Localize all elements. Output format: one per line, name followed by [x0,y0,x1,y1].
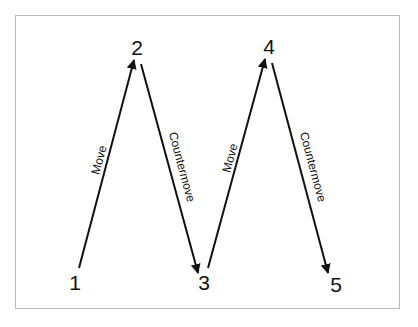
node-label-5: 5 [330,273,342,296]
node-label-2: 2 [131,36,143,59]
zigzag-diagram: MoveCountermoveMoveCountermove 12345 [0,0,418,327]
edge-label-countermove: Countermove [297,130,329,204]
node-label-4: 4 [263,35,275,58]
node-label-3: 3 [198,271,210,294]
node-label-1: 1 [69,271,81,294]
edge-label-countermove: Countermove [166,130,198,204]
edges-group [79,59,328,273]
arrow-3-to-4 [208,59,265,268]
arrow-1-to-2 [79,60,134,268]
nodes-group: 12345 [69,35,342,296]
edge-label-move: Move [88,144,109,176]
